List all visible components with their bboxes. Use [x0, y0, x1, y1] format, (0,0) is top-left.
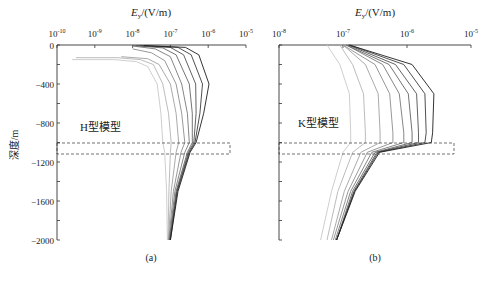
- y-tick-label: −800: [35, 119, 54, 129]
- panel-b-curves: [321, 45, 434, 240]
- panel-b-axes: 10-810-710-610-5: [272, 28, 478, 240]
- y-tick-label: −1600: [31, 197, 55, 207]
- panel-b-x-axis-title: Ey/(V/m): [354, 6, 396, 20]
- data-curve: [133, 49, 185, 240]
- panel-b-label: (b): [369, 252, 381, 264]
- panel-b-target-layer-box: [279, 143, 454, 154]
- data-curve: [333, 45, 393, 240]
- x-tick-label: 10-10: [49, 28, 66, 39]
- x-tick-label: 10-7: [336, 28, 350, 39]
- x-tick-label: 10-9: [88, 28, 102, 39]
- data-curve: [337, 45, 419, 240]
- x-tick-label: 10-5: [464, 28, 478, 39]
- panel-a-chart: Ey/(V/m) 10-1010-910-810-710-610-50−400−…: [31, 6, 253, 264]
- x-tick-label: 10-6: [400, 28, 414, 39]
- panel-a-model-annotation: H型模型: [80, 120, 121, 133]
- data-curve: [337, 45, 434, 240]
- data-curve: [72, 60, 167, 240]
- y-tick-label: −400: [35, 80, 54, 90]
- x-tick-label: 10-7: [163, 28, 177, 39]
- x-tick-label: 10-8: [272, 28, 286, 39]
- data-curve: [133, 46, 190, 240]
- x-tick-label: 10-6: [201, 28, 215, 39]
- y-axis-title: 深度/m: [8, 130, 20, 161]
- data-curve: [121, 57, 178, 240]
- data-curve: [337, 45, 427, 240]
- figure: Ey/(V/m) 10-1010-910-810-710-610-50−400−…: [0, 0, 496, 281]
- panel-a-x-axis-title: Ey/(V/m): [130, 6, 172, 20]
- panel-a-target-layer-box: [57, 143, 230, 154]
- x-tick-label: 10-8: [126, 28, 140, 39]
- y-tick-label: −1200: [31, 158, 55, 168]
- panel-b-model-annotation: K型模型: [298, 116, 339, 129]
- x-tick-label: 10-5: [239, 28, 253, 39]
- y-tick-label: −2000: [31, 236, 55, 246]
- y-tick-label: 0: [50, 41, 55, 51]
- panel-b-chart: Ey/(V/m) 10-810-710-610-5 K型模型 (b): [272, 6, 478, 264]
- panel-a-label: (a): [145, 252, 156, 264]
